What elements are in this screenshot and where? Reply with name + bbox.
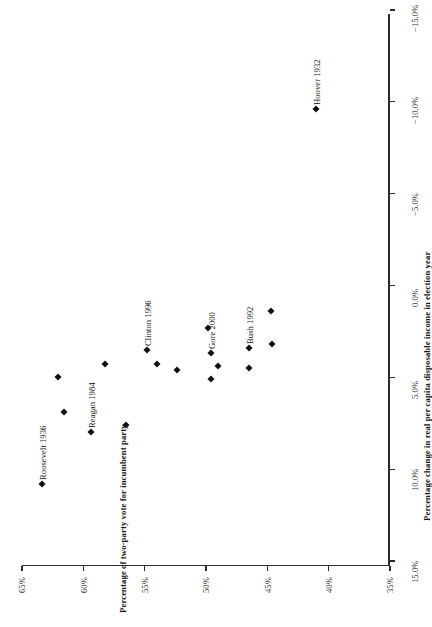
vote-tick	[21, 566, 22, 571]
data-point-marker	[207, 376, 214, 383]
data-point-marker	[144, 346, 151, 353]
data-point-marker	[153, 361, 160, 368]
income-tick-label: 0.0%	[410, 289, 420, 307]
vote-tick	[83, 566, 84, 571]
data-point-marker	[245, 344, 252, 351]
vote-tick-label: 60%	[79, 577, 89, 593]
data-point-marker	[245, 365, 252, 372]
data-point-marker	[60, 409, 67, 416]
vote-tick-label: 65%	[18, 577, 28, 593]
data-point-marker	[102, 361, 109, 368]
data-point-marker	[87, 429, 94, 436]
data-point-label: Hoover 1932	[312, 60, 322, 106]
data-point-marker	[313, 106, 320, 113]
data-point-marker	[267, 308, 274, 315]
data-point-label: Roosevelt 1936	[38, 425, 48, 479]
vote-tick	[389, 566, 390, 571]
income-tick	[390, 560, 395, 561]
rotated-plot-container: −15.0%−10.0%−5.0%0.0%5.0%10.0%15.0% 35%4…	[0, 0, 432, 627]
data-point-marker	[173, 366, 180, 373]
income-tick	[390, 377, 395, 378]
data-point-marker	[207, 350, 214, 357]
data-point-marker	[269, 341, 276, 348]
data-point-marker	[38, 480, 45, 487]
vote-tick-label: 45%	[263, 577, 273, 593]
vote-tick	[144, 566, 145, 571]
income-tick	[390, 101, 395, 102]
vote-tick	[205, 566, 206, 571]
scatter-chart-figure: −15.0%−10.0%−5.0%0.0%5.0%10.0%15.0% 35%4…	[0, 0, 432, 627]
vote-tick	[328, 566, 329, 571]
data-point-label: Clinton 1996	[143, 300, 153, 346]
income-axis-title: Percentage change in real per capita dis…	[422, 252, 432, 521]
income-tick-label: −5.0%	[410, 193, 420, 216]
vote-tick-label: 55%	[140, 577, 150, 593]
income-tick-label: 10.0%	[410, 469, 420, 491]
vote-tick-label: 40%	[324, 577, 334, 593]
vote-tick-label: 50%	[202, 577, 212, 593]
vote-axis-title: Percentage of two-party vote for incumbe…	[118, 424, 128, 613]
data-point-label: Reagan 1984	[87, 383, 97, 429]
data-point-marker	[54, 374, 61, 381]
income-axis-line	[388, 14, 390, 565]
income-tick	[390, 9, 395, 10]
income-tick-label: 15.0%	[410, 561, 420, 583]
income-tick	[390, 469, 395, 470]
data-point-label: Bush 1992	[245, 306, 255, 343]
data-point-marker	[215, 363, 222, 370]
vote-tick-label: 35%	[386, 577, 396, 593]
income-tick-label: −15.0%	[410, 5, 420, 32]
income-tick-label: −10.0%	[410, 96, 420, 123]
income-tick-label: 5.0%	[410, 381, 420, 399]
income-tick	[390, 285, 395, 286]
income-tick	[390, 193, 395, 194]
vote-tick	[267, 566, 268, 571]
